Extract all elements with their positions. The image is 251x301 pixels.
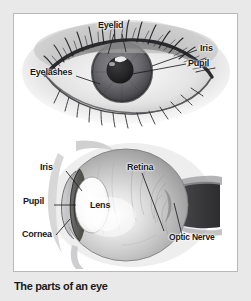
figure-frame: Eyelid Iris Pupil Eyelashes: [13, 13, 238, 272]
cross-section-eye-graphic: [14, 135, 237, 271]
label-eyelashes: Eyelashes: [30, 68, 72, 77]
label-retina: Retina: [127, 163, 153, 172]
label-eyelid: Eyelid: [98, 21, 123, 30]
label-pupil-cross: Pupil: [23, 197, 44, 206]
figure-page: Eyelid Iris Pupil Eyelashes: [0, 0, 251, 301]
cross-section-eye-illustration: Iris Pupil Cornea Lens Retina Optic Nerv…: [14, 135, 237, 271]
label-lens: Lens: [90, 201, 110, 210]
figure-caption: The parts of an eye: [14, 280, 108, 293]
label-iris-front: Iris: [200, 44, 213, 53]
label-cornea: Cornea: [22, 230, 52, 239]
label-optic-nerve: Optic Nerve: [169, 233, 215, 242]
label-iris-cross: Iris: [40, 163, 53, 172]
label-pupil-front: Pupil: [188, 59, 209, 68]
front-view-eye-illustration: Eyelid Iris Pupil Eyelashes: [14, 14, 237, 135]
